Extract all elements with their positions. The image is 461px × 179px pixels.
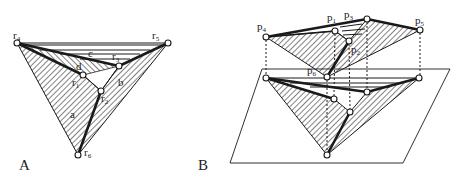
panel-b: p4 p1 p3 p5 p2 p6 B bbox=[198, 8, 450, 173]
diagram-canvas: r4 r5 r3 r1 r2 r6 a b c d A bbox=[0, 0, 461, 179]
vertex-p4 bbox=[263, 34, 269, 40]
spatial-figure bbox=[266, 19, 420, 77]
label-p3: p3 bbox=[344, 8, 354, 22]
panel-a: r4 r5 r3 r1 r2 r6 a b c d A bbox=[13, 29, 171, 173]
projected-figure bbox=[266, 78, 419, 155]
face-label-b: b bbox=[118, 76, 124, 88]
vertex-p6 bbox=[324, 74, 330, 80]
face-label-d: d bbox=[76, 60, 82, 72]
label-p1: p1 bbox=[327, 11, 337, 25]
face-label-a: a bbox=[70, 108, 75, 120]
panel-label-b: B bbox=[198, 157, 208, 173]
label-r3: r3 bbox=[112, 50, 120, 64]
label-p5: p5 bbox=[415, 14, 425, 28]
vertex-r1 bbox=[80, 72, 86, 78]
vertex-p3 bbox=[364, 16, 370, 22]
label-r4: r4 bbox=[13, 29, 21, 43]
vertex-r5 bbox=[165, 40, 171, 46]
label-r5: r5 bbox=[152, 29, 160, 43]
label-p4: p4 bbox=[257, 20, 267, 34]
vertex-r6 bbox=[75, 152, 81, 158]
label-r6: r6 bbox=[84, 146, 92, 160]
panel-label-a: A bbox=[19, 157, 30, 173]
face-label-c: c bbox=[88, 47, 93, 59]
vertex-p1 bbox=[332, 28, 338, 34]
